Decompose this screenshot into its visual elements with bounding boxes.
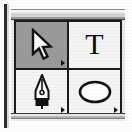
pen-nib-icon (30, 74, 54, 110)
arrow-cursor-icon (29, 28, 55, 62)
screenshot-root: T (0, 0, 132, 132)
ellipse-shape-icon (76, 78, 114, 106)
tool-button-pen[interactable] (16, 70, 67, 116)
type-tool-icon: T (85, 29, 103, 59)
palette-footer (11, 113, 125, 121)
tool-button-selection[interactable] (16, 22, 67, 68)
flyout-marker-selection[interactable] (61, 60, 65, 66)
toolbox-palette: T (11, 9, 125, 121)
tool-button-type[interactable]: T (69, 22, 120, 68)
palette-titlebar[interactable] (11, 9, 125, 20)
tool-button-ellipse[interactable] (69, 70, 120, 116)
tool-grid: T (14, 20, 122, 117)
window-left-edge-highlight (7, 4, 9, 128)
